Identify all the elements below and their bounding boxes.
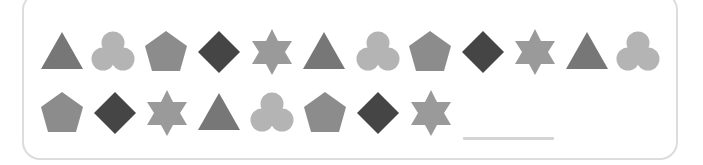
triangle-icon: [300, 28, 348, 76]
star-icon: [248, 28, 296, 76]
trefoil-icon: [248, 89, 296, 137]
diamond-icon: [91, 89, 139, 137]
diamond-icon: [354, 89, 402, 137]
star-icon: [407, 89, 455, 137]
diamond-icon: [459, 28, 507, 76]
trefoil-icon: [354, 28, 402, 76]
star-icon: [511, 28, 559, 76]
answer-blank-line[interactable]: [463, 137, 554, 140]
triangle-icon: [563, 28, 611, 76]
pentagon-icon: [406, 28, 454, 76]
star-icon: [143, 89, 191, 137]
pentagon-icon: [38, 89, 86, 137]
pentagon-icon: [301, 89, 349, 137]
diamond-icon: [195, 28, 243, 76]
pentagon-icon: [142, 28, 190, 76]
triangle-icon: [38, 28, 86, 76]
trefoil-icon: [614, 28, 662, 76]
triangle-icon: [195, 89, 243, 137]
trefoil-icon: [89, 28, 137, 76]
